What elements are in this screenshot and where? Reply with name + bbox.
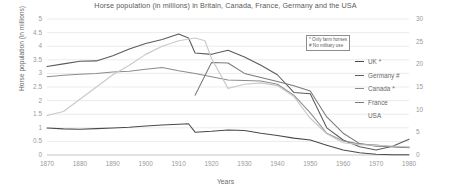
y-axis-right-tick-label: 15 bbox=[416, 83, 446, 90]
legend-swatch-icon bbox=[355, 61, 364, 62]
annotation-line-2: # No military use bbox=[309, 43, 347, 49]
y-axis-left-tick-label: 2.5 bbox=[14, 83, 42, 90]
legend-item-label: UK * bbox=[368, 58, 381, 65]
legend-item-canada[interactable]: Canada * bbox=[355, 82, 400, 96]
x-axis-tick-label: 1870 bbox=[33, 160, 61, 167]
legend-item-usa[interactable]: USA bbox=[355, 109, 400, 123]
legend-swatch-icon bbox=[355, 102, 364, 103]
x-axis-tick-label: 1930 bbox=[230, 160, 258, 167]
y-axis-right-tick-label: 0 bbox=[416, 151, 446, 158]
x-axis-tick-label: 1940 bbox=[263, 160, 291, 167]
chart-title: Horse population (in millions) in Britai… bbox=[0, 1, 451, 10]
y-axis-left-tick-label: 3.5 bbox=[14, 56, 42, 63]
legend-item-label: Germany # bbox=[368, 72, 400, 79]
y-axis-left-tick-label: 0 bbox=[14, 151, 42, 158]
legend-swatch-icon bbox=[355, 88, 364, 89]
y-axis-left-tick-label: 1.5 bbox=[14, 110, 42, 117]
legend-item-germany[interactable]: Germany # bbox=[355, 69, 400, 83]
y-axis-right-tick-label: 30 bbox=[416, 15, 446, 22]
y-axis-right-tick-label: 5 bbox=[416, 128, 446, 135]
y-axis-left-tick-label: 0.5 bbox=[14, 137, 42, 144]
x-axis-tick-label: 1960 bbox=[329, 160, 357, 167]
y-axis-right-tick-label: 20 bbox=[416, 60, 446, 67]
y-axis-right-tick-label: 10 bbox=[416, 106, 446, 113]
legend-item-label: Canada * bbox=[368, 85, 395, 92]
x-axis-tick-label: 1920 bbox=[198, 160, 226, 167]
x-axis-tick-label: 1970 bbox=[362, 160, 390, 167]
x-axis-tick-label: 1880 bbox=[66, 160, 94, 167]
y-axis-left-tick-label: 1 bbox=[14, 124, 42, 131]
legend-swatch-icon bbox=[355, 115, 364, 116]
x-axis-tick-label: 1890 bbox=[99, 160, 127, 167]
annotation-note-box: * Only farm horses# No military use bbox=[306, 35, 350, 51]
legend-item-label: USA bbox=[368, 112, 381, 119]
annotation-line-1: * Only farm horses bbox=[309, 37, 347, 43]
y-axis-left-tick-label: 5 bbox=[14, 15, 42, 22]
y-axis-left-tick-label: 2 bbox=[14, 97, 42, 104]
y-axis-left-tick-label: 4.5 bbox=[14, 29, 42, 36]
legend-item-label: France bbox=[368, 99, 388, 106]
x-axis-tick-label: 1910 bbox=[165, 160, 193, 167]
y-axis-left-tick-label: 3 bbox=[14, 69, 42, 76]
x-axis-title: Years bbox=[0, 178, 451, 185]
y-axis-right-tick-label: 25 bbox=[416, 38, 446, 45]
y-axis-left-tick-label: 4 bbox=[14, 42, 42, 49]
legend-swatch-icon bbox=[355, 75, 364, 76]
x-axis-tick-label: 1950 bbox=[296, 160, 324, 167]
series-line-uk bbox=[47, 124, 409, 155]
legend-item-uk[interactable]: UK * bbox=[355, 55, 400, 69]
horse-population-line-chart: Horse population (in millions) in Britai… bbox=[0, 0, 451, 187]
chart-legend: UK *Germany #Canada *FranceUSA bbox=[355, 55, 400, 123]
x-axis-tick-label: 1980 bbox=[395, 160, 423, 167]
x-axis-tick-label: 1900 bbox=[132, 160, 160, 167]
legend-item-france[interactable]: France bbox=[355, 96, 400, 110]
